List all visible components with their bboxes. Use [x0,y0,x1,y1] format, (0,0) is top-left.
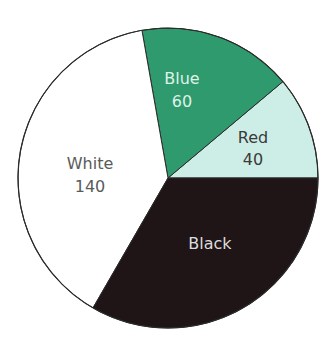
slice-label-black: Black [188,234,232,253]
pie-chart: Red40Blue60White140Black [0,0,334,345]
slice-value-blue: 60 [172,92,192,111]
slice-label-blue: Blue [164,69,199,88]
slice-label-white: White [67,154,114,173]
slice-value-red: 40 [243,150,263,169]
pie-chart-canvas: Red40Blue60White140Black [0,0,334,345]
slice-value-white: 140 [75,177,106,196]
slice-label-red: Red [238,128,268,147]
